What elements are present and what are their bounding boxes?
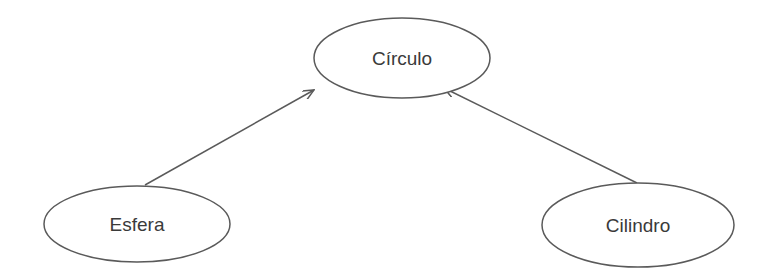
node-cilindro: Cilindro [542,183,734,267]
node-esfera-label: Esfera [110,214,165,235]
node-circulo: Círculo [314,18,490,98]
node-cilindro-label: Cilindro [606,215,670,236]
node-esfera: Esfera [44,186,230,262]
diagram-canvas: Círculo Esfera Cilindro [0,0,768,280]
edge-esfera-to-circulo [145,90,314,185]
edge-cilindro-to-circulo [444,88,637,183]
node-circulo-label: Círculo [372,48,432,69]
